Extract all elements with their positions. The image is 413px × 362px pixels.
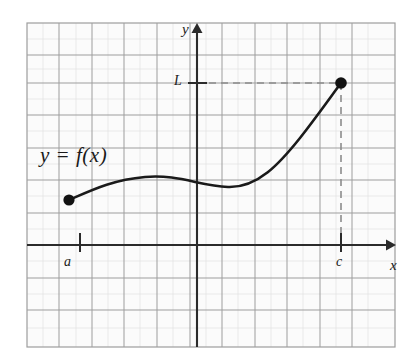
limit-graph-figure: y = f(x) y x L a c	[0, 0, 413, 362]
function-label: y = f(x)	[40, 145, 107, 166]
limit-value-label: L	[174, 74, 182, 88]
graph-canvas	[0, 0, 413, 362]
x-axis-label: x	[390, 258, 397, 273]
right-endpoint-dot	[335, 77, 347, 89]
left-endpoint-dot	[63, 194, 74, 205]
a-tick-label: a	[64, 255, 71, 269]
c-tick-label: c	[336, 255, 342, 269]
y-axis-label: y	[182, 22, 189, 37]
